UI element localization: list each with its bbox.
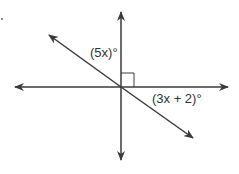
lower-angle-label: (3x + 2)°: [152, 91, 202, 106]
upper-angle-label: (5x)°: [90, 45, 118, 60]
intersecting-lines-diagram: (5x)° (3x + 2)°: [0, 0, 239, 174]
right-angle-marker: [121, 73, 134, 87]
stray-dot: [1, 18, 3, 20]
diagonal-line-upper-left: [49, 35, 121, 87]
